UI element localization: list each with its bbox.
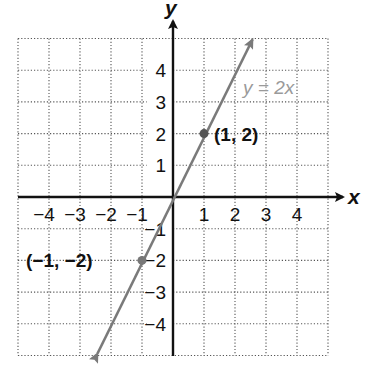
point-label-1-2: (1, 2) bbox=[214, 124, 258, 145]
x-axis-label: x bbox=[347, 185, 361, 208]
coordinate-plane-chart: x y −4−3−2−11234 4321−1−2−3−4 y = 2x (1,… bbox=[0, 0, 373, 366]
x-tick-label: 1 bbox=[199, 204, 210, 225]
x-tick-label: 4 bbox=[292, 204, 303, 225]
x-tick-label: 3 bbox=[261, 204, 272, 225]
point-1-2 bbox=[200, 129, 209, 138]
x-tick-labels: −4−3−2−11234 bbox=[33, 204, 303, 225]
y-tick-label: 3 bbox=[155, 92, 166, 113]
x-tick-label: 2 bbox=[230, 204, 241, 225]
point-neg1-neg2 bbox=[138, 256, 147, 265]
y-tick-label: 2 bbox=[155, 124, 166, 145]
equation-label: y = 2x bbox=[241, 77, 296, 98]
y-axis-label: y bbox=[164, 0, 178, 19]
y-tick-label: −4 bbox=[144, 314, 166, 335]
x-tick-label: −3 bbox=[64, 204, 86, 225]
y-tick-label: 1 bbox=[155, 155, 166, 176]
y-tick-label: 4 bbox=[155, 60, 166, 81]
x-tick-label: −2 bbox=[95, 204, 117, 225]
x-tick-label: −4 bbox=[33, 204, 55, 225]
y-tick-label: −3 bbox=[144, 282, 166, 303]
point-label-neg1-neg2: (−1, −2) bbox=[26, 250, 93, 271]
